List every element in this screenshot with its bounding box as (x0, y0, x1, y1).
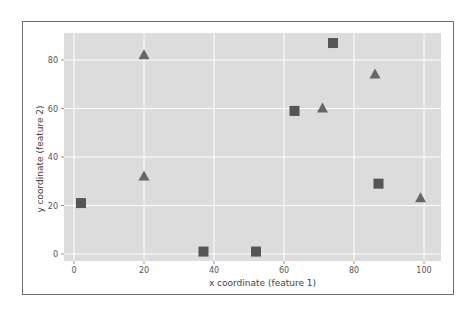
y-tick-label: 60 (48, 105, 58, 114)
y-tick-label: 0 (53, 250, 58, 259)
y-tick-label: 40 (48, 153, 58, 162)
x-tick-label: 100 (416, 266, 431, 275)
x-tick-label: 20 (139, 266, 149, 275)
scatter-chart: 020406080100020406080x coordinate (featu… (0, 0, 475, 315)
x-axis-title: x coordinate (feature 1) (209, 278, 316, 288)
y-axis-title: y coordinate (feature 2) (35, 105, 45, 212)
x-tick-label: 40 (209, 266, 219, 275)
y-tick-label: 80 (48, 56, 58, 65)
y-tick-label: 20 (48, 202, 58, 211)
x-tick-label: 60 (279, 266, 289, 275)
square-marker (374, 179, 384, 189)
square-marker (76, 198, 86, 208)
square-marker (251, 247, 261, 257)
square-marker (328, 38, 338, 48)
square-marker (290, 106, 300, 116)
square-marker (199, 247, 209, 257)
x-tick-label: 0 (71, 266, 76, 275)
x-tick-label: 80 (349, 266, 359, 275)
plot-area (64, 33, 441, 261)
